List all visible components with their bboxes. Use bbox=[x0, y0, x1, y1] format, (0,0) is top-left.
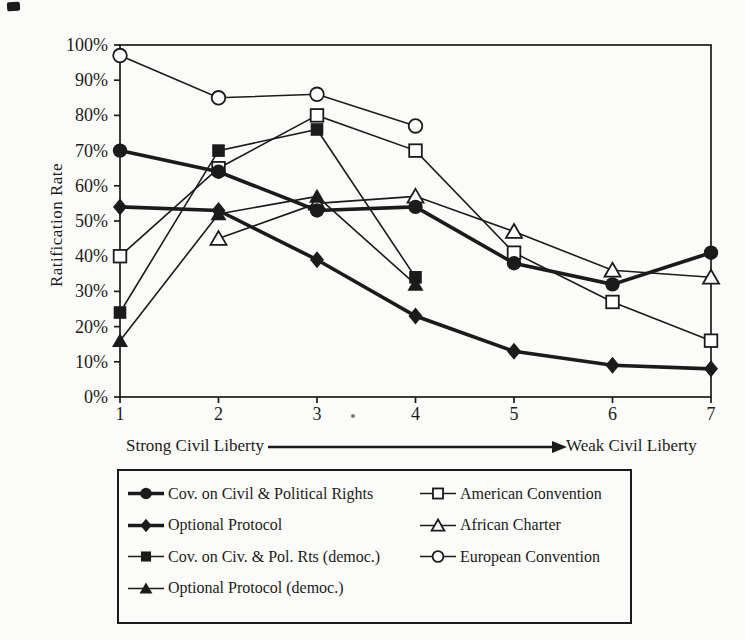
x-tick-label: 4 bbox=[396, 403, 436, 425]
data-point-filled-circle bbox=[211, 165, 225, 179]
legend-column-left: Cov. on Civil & Political RightsOptional… bbox=[127, 478, 380, 604]
y-tick-label: 10% bbox=[38, 351, 108, 373]
data-point-filled-circle bbox=[408, 200, 422, 214]
data-point-filled-circle bbox=[605, 277, 619, 291]
data-point-filled-square bbox=[212, 144, 225, 157]
filled-square-legend-icon bbox=[127, 548, 165, 565]
open-square-legend-icon bbox=[419, 485, 457, 502]
legend-label: European Convention bbox=[460, 548, 600, 566]
data-point-filled-square bbox=[141, 552, 151, 562]
data-point-open-square bbox=[311, 109, 324, 122]
x-tick-label: 2 bbox=[199, 403, 239, 425]
plot-frame bbox=[120, 45, 711, 397]
y-tick-label: 90% bbox=[38, 69, 108, 91]
data-point-filled-circle bbox=[113, 143, 127, 157]
legend-item: European Convention bbox=[419, 541, 602, 573]
x-tick-label: 1 bbox=[100, 403, 140, 425]
legend-item: Optional Protocol bbox=[127, 510, 380, 542]
y-tick-label: 20% bbox=[38, 316, 108, 338]
open-circle-legend-icon bbox=[419, 548, 457, 565]
data-point-open-circle bbox=[433, 551, 444, 562]
legend-column-right: American ConventionAfrican CharterEurope… bbox=[419, 478, 602, 573]
legend-label: American Convention bbox=[460, 485, 602, 503]
data-point-open-circle bbox=[409, 119, 423, 133]
filled-triangle-legend-icon bbox=[127, 580, 165, 597]
open-triangle-legend-icon bbox=[419, 517, 457, 534]
data-point-filled-diamond bbox=[140, 518, 151, 532]
legend-label: Optional Protocol (democ.) bbox=[168, 579, 344, 597]
legend-item: American Convention bbox=[419, 478, 602, 510]
legend-label: Cov. on Civ. & Pol. Rts (democ.) bbox=[168, 548, 380, 566]
data-point-filled-triangle bbox=[309, 189, 325, 203]
data-point-open-circle bbox=[212, 91, 226, 105]
scan-artifact-dot bbox=[351, 414, 355, 418]
data-point-filled-diamond bbox=[606, 357, 620, 374]
x-tick-label: 3 bbox=[297, 403, 337, 425]
data-point-filled-square bbox=[311, 123, 324, 136]
x-tick-label: 5 bbox=[494, 403, 534, 425]
data-point-filled-circle bbox=[310, 203, 324, 217]
filled-diamond-legend-icon bbox=[127, 517, 165, 534]
data-point-filled-circle bbox=[140, 488, 152, 500]
data-point-filled-circle bbox=[507, 256, 521, 270]
legend-label: Cov. on Civil & Political Rights bbox=[168, 485, 373, 503]
legend-label: African Charter bbox=[460, 516, 561, 534]
y-tick-label: 80% bbox=[38, 104, 108, 126]
filled-circle-legend-icon bbox=[127, 485, 165, 502]
legend-box: Cov. on Civil & Political RightsOptional… bbox=[117, 469, 632, 624]
y-tick-label: 100% bbox=[38, 34, 108, 56]
series-line bbox=[120, 151, 711, 285]
data-point-open-triangle bbox=[211, 231, 227, 245]
x-tick-label: 7 bbox=[691, 403, 731, 425]
data-point-filled-diamond bbox=[113, 198, 127, 215]
data-point-open-square bbox=[114, 250, 127, 263]
legend-item: Optional Protocol (democ.) bbox=[127, 573, 380, 605]
legend-item: Cov. on Civil & Political Rights bbox=[127, 478, 380, 510]
data-point-filled-triangle bbox=[112, 333, 128, 347]
x-axis-annotation-strong: Strong Civil Liberty bbox=[126, 436, 264, 456]
data-point-filled-square bbox=[114, 306, 127, 319]
y-tick-label: 30% bbox=[38, 280, 108, 302]
data-point-filled-diamond bbox=[310, 251, 324, 268]
data-point-open-triangle bbox=[605, 263, 621, 277]
y-tick-label: 50% bbox=[38, 210, 108, 232]
data-point-open-circle bbox=[310, 87, 324, 101]
y-tick-label: 40% bbox=[38, 245, 108, 267]
series-line bbox=[120, 56, 416, 126]
data-point-filled-diamond bbox=[409, 308, 423, 325]
data-point-open-square bbox=[409, 144, 422, 157]
x-axis-annotation-weak: Weak Civil Liberty bbox=[566, 436, 697, 456]
data-point-open-square bbox=[606, 296, 619, 309]
scanned-line-chart-page: Ratification Rate 0%10%20%30%40%50%60%70… bbox=[0, 0, 745, 640]
data-point-filled-circle bbox=[704, 245, 718, 259]
y-tick-label: 0% bbox=[38, 386, 108, 408]
legend-item: African Charter bbox=[419, 510, 602, 542]
direction-arrow-head bbox=[552, 441, 567, 453]
data-point-open-circle bbox=[113, 49, 127, 63]
y-tick-label: 60% bbox=[38, 175, 108, 197]
data-point-open-square bbox=[433, 489, 443, 499]
data-point-filled-diamond bbox=[507, 343, 521, 360]
y-tick-label: 70% bbox=[38, 140, 108, 162]
data-point-open-triangle bbox=[506, 224, 522, 238]
data-point-open-square bbox=[705, 334, 718, 347]
series-line bbox=[120, 196, 416, 340]
legend-item: Cov. on Civ. & Pol. Rts (democ.) bbox=[127, 541, 380, 573]
x-tick-label: 6 bbox=[593, 403, 633, 425]
legend-label: Optional Protocol bbox=[168, 516, 282, 534]
data-point-filled-diamond bbox=[704, 360, 718, 377]
